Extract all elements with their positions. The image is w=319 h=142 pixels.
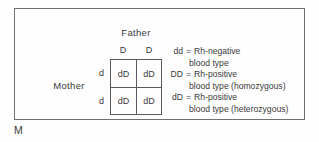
- legend-line-primary: dd = Rh-negative: [165, 46, 313, 58]
- mother-allele-1: d: [95, 87, 108, 115]
- figure-border: Father D D Mother d d dD dD dD dD dd = R…: [14, 8, 305, 120]
- father-axis-label: Father: [110, 27, 162, 38]
- legend-detail: blood type (homozygous): [165, 81, 313, 93]
- punnett-square-figure: Father D D Mother d d dD dD dD dD dd = R…: [0, 0, 319, 142]
- father-allele-1: D: [136, 45, 162, 55]
- legend-detail: blood type: [165, 58, 313, 70]
- legend-equals-sign: =: [183, 69, 194, 81]
- legend-genotype: dD: [165, 92, 183, 104]
- legend-phenotype: Rh-negative: [194, 46, 240, 58]
- legend-genotype: dd: [165, 46, 183, 58]
- figure-caption-label: M: [14, 124, 23, 136]
- punnett-cell: dD: [111, 60, 136, 87]
- father-allele-0: D: [110, 45, 136, 55]
- legend-line-primary: DD = Rh-positive: [165, 69, 313, 81]
- punnett-cell: dD: [136, 60, 161, 87]
- legend-equals-sign: =: [183, 46, 194, 58]
- legend-phenotype: Rh-positive: [194, 92, 237, 104]
- legend-line-primary: dD = Rh-positive: [165, 92, 313, 104]
- mother-axis-label: Mother: [45, 80, 93, 91]
- legend-phenotype: Rh-positive: [194, 69, 237, 81]
- father-allele-headers: D D: [110, 45, 162, 55]
- mother-allele-headers: d d: [95, 59, 108, 115]
- legend-detail: blood type (heterozygous): [165, 104, 313, 116]
- genotype-legend: dd = Rh-negative blood type DD = Rh-posi…: [165, 46, 313, 115]
- legend-equals-sign: =: [183, 92, 194, 104]
- legend-entry: dD = Rh-positive blood type (heterozygou…: [165, 92, 313, 115]
- legend-genotype: DD: [165, 69, 183, 81]
- legend-entry: DD = Rh-positive blood type (homozygous): [165, 69, 313, 92]
- legend-entry: dd = Rh-negative blood type: [165, 46, 313, 69]
- punnett-square-grid: dD dD dD dD: [110, 59, 162, 115]
- punnett-cell: dD: [111, 87, 136, 114]
- punnett-cell: dD: [136, 87, 161, 114]
- mother-allele-0: d: [95, 59, 108, 87]
